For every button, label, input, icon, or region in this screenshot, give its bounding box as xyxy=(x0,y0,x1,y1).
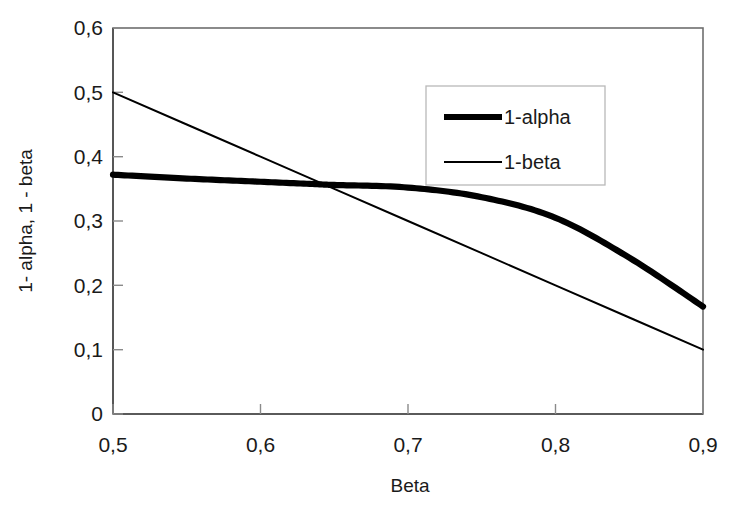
y-tick-label: 0 xyxy=(91,402,103,425)
y-axis-title: 1- alpha, 1 - beta xyxy=(15,149,36,293)
y-tick-label: 0,3 xyxy=(74,209,103,232)
legend-label-1-alpha: 1-alpha xyxy=(504,106,572,128)
y-tick-label: 0,6 xyxy=(74,16,103,39)
x-tick-label: 0,8 xyxy=(541,433,570,456)
x-tick-label: 0,9 xyxy=(688,433,717,456)
y-tick-label: 0,4 xyxy=(74,145,104,168)
chart-legend: 1-alpha 1-beta xyxy=(426,86,605,185)
y-tick-label: 0,1 xyxy=(74,338,103,361)
x-tick-label: 0,6 xyxy=(246,433,275,456)
legend-label-1-beta: 1-beta xyxy=(504,151,562,173)
y-tick-label: 0,2 xyxy=(74,274,103,297)
chart-container: 0 0,1 0,2 0,3 0,4 0,5 0,6 0,5 0,6 0,7 0,… xyxy=(0,0,753,518)
x-axis-title: Beta xyxy=(390,475,430,496)
x-tick-label: 0,7 xyxy=(393,433,422,456)
y-tick-label: 0,5 xyxy=(74,81,103,104)
x-tick-label: 0,5 xyxy=(98,433,127,456)
line-chart: 0 0,1 0,2 0,3 0,4 0,5 0,6 0,5 0,6 0,7 0,… xyxy=(0,0,753,518)
